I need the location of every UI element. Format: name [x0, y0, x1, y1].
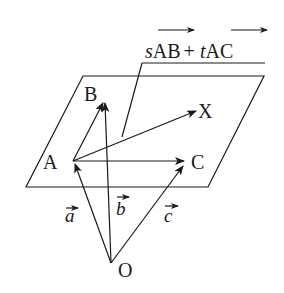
point-label-X: X [198, 100, 213, 122]
vector-AB [73, 103, 103, 161]
formula-ab: AB [153, 40, 181, 62]
vector-OA [75, 164, 111, 263]
vector-label-c: c [164, 205, 173, 226]
point-label-C: C [191, 151, 204, 173]
vector-label-b: b [116, 198, 126, 219]
formula-ac: AC [205, 40, 233, 62]
annotation-formula: sAB+tAC [145, 40, 233, 62]
point-label-O: O [118, 259, 132, 281]
point-label-A: A [43, 151, 58, 173]
annotation-leader-line [122, 63, 142, 137]
formula-s: s [145, 40, 153, 62]
vector-AX [73, 111, 196, 161]
formula-plus: + [184, 40, 195, 62]
point-label-B: B [84, 83, 97, 105]
vector-OB [105, 103, 111, 263]
vector-diagram: B X A C O a b c sAB+tAC [0, 0, 284, 293]
